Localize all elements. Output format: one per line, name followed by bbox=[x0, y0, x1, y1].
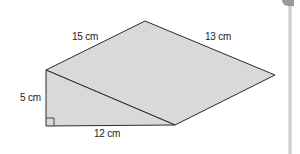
label-5cm: 5 cm bbox=[20, 92, 41, 103]
prism-diagram bbox=[0, 0, 300, 154]
label-13cm: 13 cm bbox=[205, 31, 231, 42]
label-15cm: 15 cm bbox=[72, 31, 98, 42]
label-12cm: 12 cm bbox=[94, 128, 120, 139]
